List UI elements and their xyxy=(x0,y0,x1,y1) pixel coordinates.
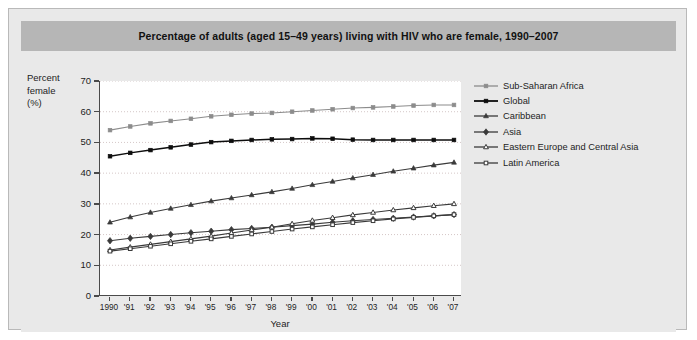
y-axis-tick-label: 40 xyxy=(61,167,91,178)
data-point-filled-diamond xyxy=(483,129,488,135)
data-point-open-square xyxy=(230,235,234,239)
x-axis-tick-mark xyxy=(109,297,110,301)
data-point-open-square xyxy=(209,237,213,241)
legend-item-asia[interactable]: Asia xyxy=(473,124,673,139)
data-point-filled-square xyxy=(128,151,132,155)
data-point-open-square xyxy=(331,223,335,227)
data-point-open-square xyxy=(189,240,193,244)
y-axis-tick-label: 50 xyxy=(61,136,91,147)
legend-symbol xyxy=(473,80,499,92)
data-point-filled-square xyxy=(412,104,416,108)
x-axis-tick-mark xyxy=(170,297,171,301)
chart-title-bar: Percentage of adults (aged 15–49 years) … xyxy=(21,21,676,51)
data-point-filled-square xyxy=(452,103,456,107)
legend-item-latin-america[interactable]: Latin America xyxy=(473,155,673,170)
x-axis-tick-label: '04 xyxy=(387,302,398,312)
data-point-filled-square xyxy=(108,128,112,132)
x-axis-tick-mark xyxy=(230,297,231,301)
data-point-open-square xyxy=(169,242,173,246)
data-point-filled-diamond xyxy=(107,238,112,244)
data-point-open-triangle xyxy=(484,145,489,149)
x-axis-tick-mark xyxy=(251,297,252,301)
y-axis-tick-label: 10 xyxy=(61,259,91,270)
data-point-filled-square xyxy=(189,143,193,147)
data-point-filled-square xyxy=(331,137,335,141)
legend-label: Caribbean xyxy=(503,111,546,121)
x-axis-tick-label: '05 xyxy=(407,302,418,312)
chart-canvas xyxy=(100,81,462,296)
data-point-filled-square xyxy=(331,107,335,111)
data-point-open-square xyxy=(351,221,355,225)
x-axis-tick-label: '00 xyxy=(306,302,317,312)
x-axis-tick-mark xyxy=(413,297,414,301)
y-axis-tick-label: 20 xyxy=(61,229,91,240)
x-axis-tick-label: 1990 xyxy=(100,302,118,312)
x-axis-tick-mark xyxy=(372,297,373,301)
series-asia xyxy=(107,211,456,244)
x-axis-tick-label: '95 xyxy=(205,302,216,312)
legend-item-eastern-europe-and-central-asia[interactable]: Eastern Europe and Central Asia xyxy=(473,140,673,155)
data-point-open-square xyxy=(290,227,294,231)
data-point-open-square xyxy=(250,232,254,236)
x-axis-label: Year xyxy=(99,318,461,329)
data-point-filled-square xyxy=(250,138,254,142)
legend-item-caribbean[interactable]: Caribbean xyxy=(473,109,673,124)
data-point-open-square xyxy=(484,161,488,165)
data-point-filled-square xyxy=(371,138,375,142)
data-point-open-square xyxy=(128,247,132,251)
data-point-open-triangle xyxy=(269,225,274,229)
legend-symbol xyxy=(473,157,499,169)
data-point-filled-square xyxy=(351,106,355,110)
figure-frame: Percentage of adults (aged 15–49 years) … xyxy=(8,8,687,330)
data-point-filled-square xyxy=(169,146,173,150)
x-axis-tick-label: '96 xyxy=(225,302,236,312)
data-point-filled-triangle xyxy=(452,160,457,164)
x-axis-tick-mark xyxy=(271,297,272,301)
x-axis-tick-mark xyxy=(210,297,211,301)
y-axis-tick-label: 70 xyxy=(61,75,91,86)
x-axis-tick-mark xyxy=(453,297,454,301)
legend-label: Latin America xyxy=(503,158,559,168)
legend-label: Global xyxy=(503,96,530,106)
x-axis-tick-label: '07 xyxy=(448,302,459,312)
series-sub-saharan-africa xyxy=(108,103,456,132)
x-axis-tick-label: '92 xyxy=(144,302,155,312)
data-point-filled-diamond xyxy=(128,235,133,241)
data-point-filled-square xyxy=(391,105,395,109)
x-axis-tick-label: '03 xyxy=(367,302,378,312)
data-point-open-triangle xyxy=(431,203,436,207)
data-point-filled-square xyxy=(412,138,416,142)
series-latin-america xyxy=(108,213,456,253)
data-point-filled-square xyxy=(108,154,112,158)
x-axis-tick-label: '01 xyxy=(326,302,337,312)
chart-title: Percentage of adults (aged 15–49 years) … xyxy=(138,30,558,42)
data-point-open-square xyxy=(412,216,416,220)
legend-symbol xyxy=(473,95,499,107)
x-axis-tick-label: '06 xyxy=(427,302,438,312)
legend-item-sub-saharan-africa[interactable]: Sub-Saharan Africa xyxy=(473,78,673,93)
data-point-open-triangle xyxy=(290,221,295,225)
data-point-filled-square xyxy=(209,140,213,144)
legend-label: Sub-Saharan Africa xyxy=(503,81,584,91)
data-point-open-triangle xyxy=(350,212,355,216)
chart-legend: Sub-Saharan AfricaGlobalCaribbeanAsiaEas… xyxy=(473,78,673,170)
data-point-open-triangle xyxy=(371,210,376,214)
data-point-open-square xyxy=(371,219,375,223)
y-axis-tick-label: 60 xyxy=(61,106,91,117)
plot-area xyxy=(99,81,461,296)
data-point-filled-square xyxy=(351,138,355,142)
data-point-filled-square xyxy=(169,119,173,123)
data-point-open-square xyxy=(270,230,274,234)
legend-item-global[interactable]: Global xyxy=(473,93,673,108)
data-point-filled-square xyxy=(432,138,436,142)
x-axis-tick-label: '93 xyxy=(164,302,175,312)
data-point-filled-square xyxy=(209,115,213,119)
legend-symbol xyxy=(473,141,499,153)
data-point-filled-square xyxy=(452,138,456,142)
data-point-filled-square xyxy=(189,117,193,121)
data-point-open-square xyxy=(432,214,436,218)
data-point-filled-square xyxy=(149,122,153,126)
chart-body: Percent female (%) 010203040506070 1990'… xyxy=(21,56,676,332)
series-caribbean xyxy=(108,160,457,224)
data-point-filled-square xyxy=(270,138,274,142)
